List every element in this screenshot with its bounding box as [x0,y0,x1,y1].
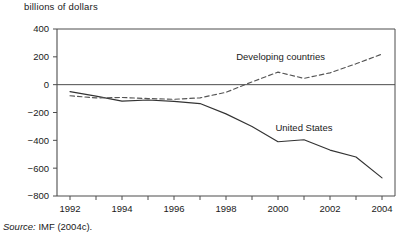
chart-plot-area: 4002000−200−400−600−80019921994199619982… [0,0,412,240]
series-line-united-states [70,92,382,178]
series-line-developing-countries [70,54,382,99]
chart-source-note: Source: IMF (2004c). [3,221,92,232]
source-citation: IMF (2004c). [36,221,93,232]
series-label-developing-countries: Developing countries [236,51,325,62]
chart-figure: billions of dollars 4002000−200−400−600−… [0,0,412,240]
x-axis-tick-label: 1996 [163,203,184,214]
y-axis-tick-label: 400 [33,23,49,34]
y-axis-tick-label: 0 [44,79,49,90]
y-axis-tick-label: −800 [28,190,49,201]
series-label-united-states: United States [275,122,332,133]
x-axis-tick-label: 2000 [267,203,288,214]
x-axis-tick-label: 1992 [59,203,80,214]
y-axis-tick-label: −400 [28,135,49,146]
y-axis-tick-label: −200 [28,107,49,118]
source-label: Source: [3,221,36,232]
y-axis-tick-label: 200 [33,51,49,62]
y-axis-tick-label: −600 [28,163,49,174]
x-axis-tick-label: 1994 [111,203,132,214]
x-axis-tick-label: 1998 [215,203,236,214]
x-axis-tick-label: 2002 [319,203,340,214]
x-axis-tick-label: 2004 [371,203,392,214]
